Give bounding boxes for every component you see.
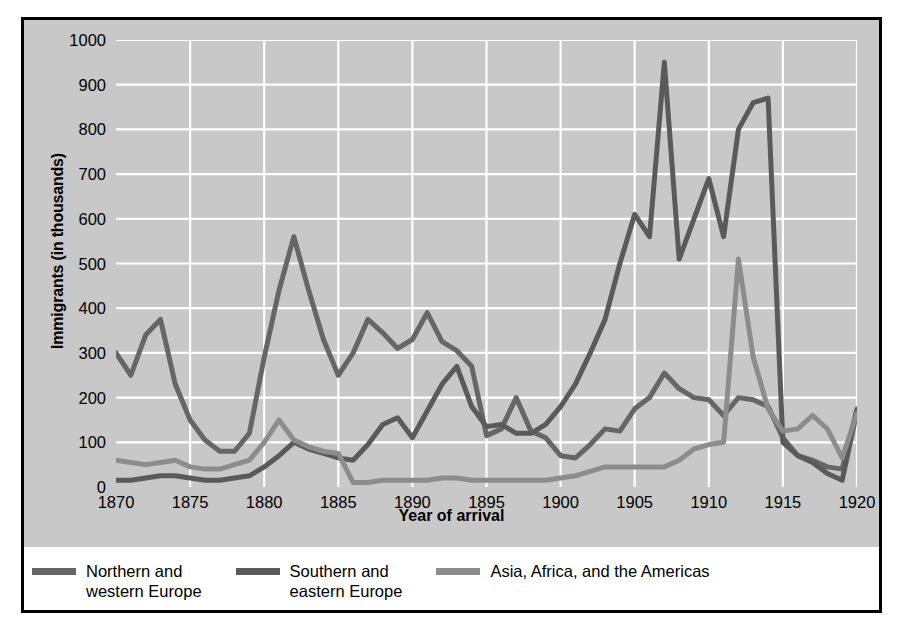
legend-swatch-icon [436,568,480,575]
chart-canvas [116,40,857,487]
legend-label: Southern and eastern Europe [290,561,403,601]
x-tick-label: 1880 [229,493,299,512]
x-tick-label: 1910 [674,493,744,512]
y-tick-label: 200 [34,388,106,407]
legend-item-0: Northern and western Europe [32,561,202,601]
y-tick-label: 600 [34,209,106,228]
x-tick-label: 1915 [748,493,818,512]
legend-label: Northern and western Europe [86,561,202,601]
y-tick-label: 300 [34,343,106,362]
x-tick-label: 1875 [155,493,225,512]
y-tick-label: 900 [34,75,106,94]
chart-card: Immigrants (in thousands) Year of arriva… [21,17,882,613]
x-tick-label: 1895 [452,493,522,512]
y-axis-title: Immigrants (in thousands) [49,121,67,381]
legend-swatch-icon [32,568,76,575]
legend-item-1: Southern and eastern Europe [236,561,403,601]
y-tick-label: 800 [34,120,106,139]
legend-item-2: Asia, Africa, and the Americas [436,561,709,581]
immigration-line-chart-figure: Immigrants (in thousands) Year of arriva… [0,0,905,640]
grid-lines [116,40,857,487]
x-tick-label: 1900 [526,493,596,512]
y-tick-label: 1000 [34,31,106,50]
y-tick-label: 100 [34,433,106,452]
x-tick-label: 1920 [822,493,892,512]
legend-label: Asia, Africa, and the Americas [490,561,709,581]
y-tick-label: 700 [34,165,106,184]
legend-swatch-icon [236,568,280,575]
y-tick-label: 400 [34,299,106,318]
x-tick-label: 1885 [303,493,373,512]
x-tick-label: 1890 [377,493,447,512]
legend-panel: Northern and western EuropeSouthern and … [24,547,879,610]
x-tick-label: 1905 [600,493,670,512]
plot-panel: Immigrants (in thousands) Year of arriva… [24,20,879,547]
legend: Northern and western EuropeSouthern and … [32,561,871,619]
x-tick-label: 1870 [81,493,151,512]
y-tick-label: 500 [34,254,106,273]
plot-area: 01002003004005006007008009001000 1870187… [116,40,857,487]
